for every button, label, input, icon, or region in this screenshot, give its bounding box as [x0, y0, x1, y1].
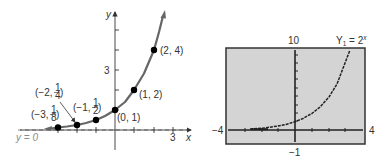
calc-function-label: Y1 = 2x [336, 34, 367, 47]
asymptote-label: y = 0 [15, 132, 38, 143]
svg-text:Y1 = 2x: Y1 = 2x [336, 34, 367, 47]
calc-xmin-label: −4 [212, 125, 224, 136]
svg-text:(−2,: (−2, [35, 87, 53, 98]
svg-text:): ) [98, 102, 101, 113]
point-neg1 [93, 117, 99, 123]
curve-top-arrow-icon [161, 10, 167, 19]
y-axis-label: y [105, 9, 112, 20]
calc-near-axis-band [251, 128, 268, 130]
label-point-1: (1, 2) [139, 89, 162, 100]
y-tick-label-3: 3 [104, 65, 110, 76]
y-ticks [115, 30, 119, 110]
x-axis-label: x [185, 132, 192, 143]
svg-text:): ) [60, 87, 63, 98]
point-neg3 [55, 124, 61, 130]
calc-ymin-label: −1 [289, 147, 301, 158]
svg-text:): ) [56, 109, 59, 120]
calc-xmax-label: 4 [369, 125, 375, 136]
left-graph: y x 3 3 y = 0 (2, 4) (1, 2) (0, 1) (−1, … [15, 9, 192, 150]
point-1 [131, 87, 137, 93]
x-tick-label-3: 3 [170, 132, 176, 143]
label-point-0: (0, 1) [117, 112, 140, 123]
svg-text:(−1,: (−1, [73, 102, 91, 113]
point-neg2 [74, 122, 80, 128]
label-point-neg1: (−1, 1 2 ) [73, 97, 101, 116]
calc-ymax-label: 10 [288, 35, 300, 46]
label-point-neg3: (−3, 1 8 ) [31, 104, 59, 123]
label-point-neg2: (−2, 1 4 ) [35, 82, 63, 101]
figure-canvas: y x 3 3 y = 0 (2, 4) (1, 2) (0, 1) (−1, … [0, 0, 386, 165]
point-2 [151, 47, 157, 53]
label-point-2: (2, 4) [160, 45, 183, 56]
svg-text:(−3,: (−3, [31, 109, 49, 120]
right-graph: 10 −1 −4 4 Y1 = 2x [212, 34, 375, 158]
